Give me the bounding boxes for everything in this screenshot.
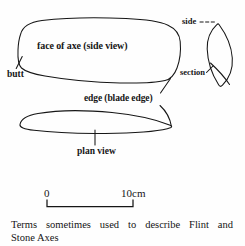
butt-leader <box>16 57 22 69</box>
plan-view-outline <box>20 111 172 134</box>
scale-bar <box>47 200 133 207</box>
caption-line-1: Terms sometimes used to describe Flint a… <box>11 219 233 232</box>
label-butt: butt <box>7 70 24 80</box>
label-face-of-axe: face of axe (side view) <box>37 41 127 51</box>
caption-line-2: Stone Axes <box>11 232 233 245</box>
label-edge: edge (blade edge) <box>84 94 152 104</box>
label-plan-view: plan view <box>77 147 116 157</box>
label-section: section <box>180 68 205 77</box>
figure-caption: Terms sometimes used to describe Flint a… <box>11 219 233 244</box>
scale-bar-end-label: 10cm <box>121 188 145 199</box>
section-outline <box>207 24 232 86</box>
scale-bar-start-label: 0 <box>44 188 50 199</box>
label-side: side <box>182 17 196 26</box>
axe-terminology-line-drawing <box>0 0 245 246</box>
figure-flint-stone-axe-terms: face of axe (side view) butt edge (blade… <box>0 0 245 246</box>
